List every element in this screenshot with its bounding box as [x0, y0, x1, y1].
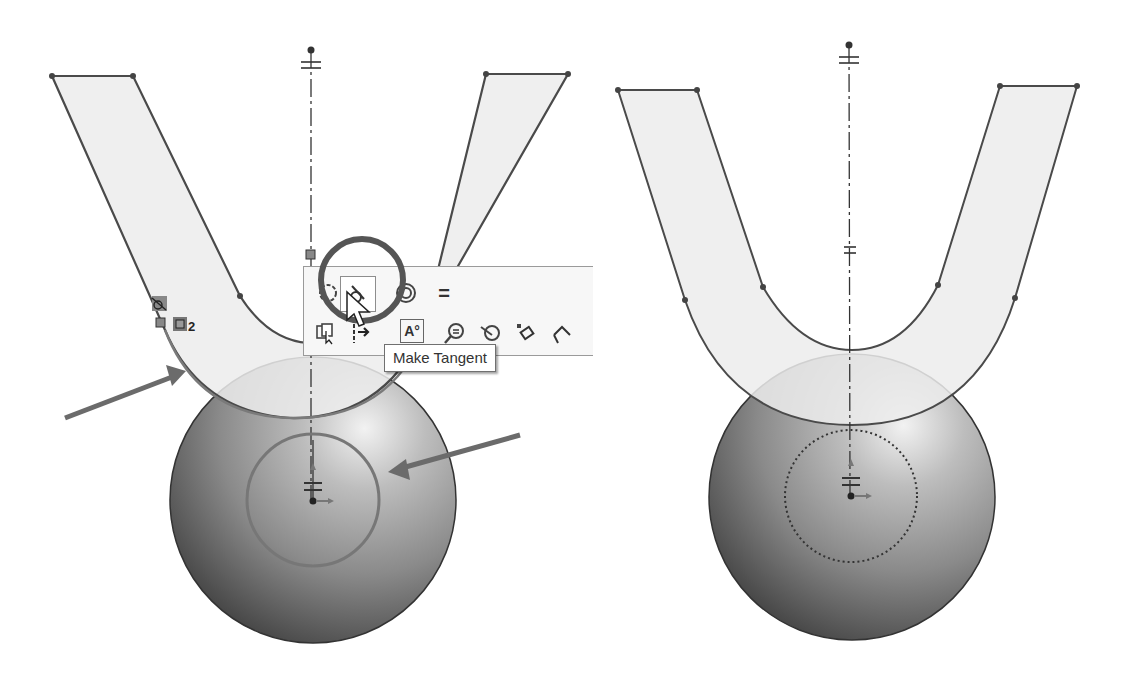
- display-relations-icon: [442, 321, 466, 345]
- display-relations-button[interactable]: [440, 319, 468, 347]
- select-chain-button[interactable]: [312, 319, 340, 347]
- fully-define-icon: [550, 321, 574, 345]
- relation-count-badge: 2: [188, 319, 195, 334]
- tangent-relation-badge[interactable]: [152, 296, 167, 311]
- equal-button[interactable]: =: [430, 279, 458, 307]
- centerline-endpoint[interactable]: [846, 42, 853, 49]
- fully-define-button[interactable]: [548, 319, 576, 347]
- smart-dimension-button[interactable]: A°: [400, 319, 424, 343]
- centerline-endpoint[interactable]: [308, 47, 315, 54]
- add-relation-icon: [514, 321, 538, 345]
- repair-sketch-button[interactable]: [476, 319, 504, 347]
- repair-sketch-icon: [478, 321, 502, 345]
- arrow-to-arc: [65, 365, 186, 418]
- coradial-button[interactable]: [314, 279, 342, 307]
- concentric-icon: [394, 281, 418, 305]
- sketch-profile[interactable]: [618, 86, 1077, 425]
- select-chain-icon: [314, 321, 338, 345]
- add-relation-button[interactable]: [512, 319, 540, 347]
- mouse-cursor-icon: [345, 290, 375, 330]
- merge-relation-badge[interactable]: [173, 317, 187, 331]
- coincident-relation-icon: [306, 250, 315, 259]
- right-figure: [615, 42, 1080, 641]
- tooltip: Make Tangent: [384, 344, 496, 372]
- coincident-relation-badge[interactable]: [156, 318, 165, 327]
- coradial-icon: [316, 281, 340, 305]
- concentric-button[interactable]: [392, 279, 420, 307]
